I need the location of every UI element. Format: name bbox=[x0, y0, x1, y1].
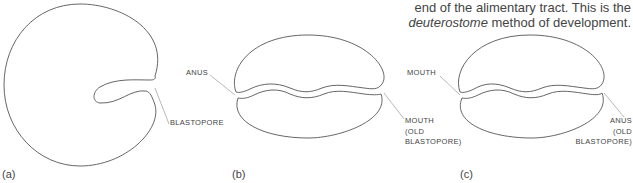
leader-anus-c bbox=[604, 93, 624, 117]
label-anus-b: ANUS bbox=[186, 68, 208, 79]
label-anus-old-blastopore-c: ANUS (OLD BLASTOPORE) bbox=[575, 116, 632, 148]
panel-label-b: (b) bbox=[232, 168, 245, 180]
panel-label-c: (c) bbox=[460, 168, 473, 180]
label-mouth-old-blastopore-b: MOUTH (OLD BLASTOPORE) bbox=[405, 116, 462, 148]
embryo-b-top-lobe bbox=[234, 35, 384, 92]
leader-mouth-c bbox=[440, 76, 460, 95]
embryo-c-top-lobe bbox=[458, 35, 604, 92]
embryo-diagram bbox=[0, 0, 633, 183]
leader-mouth-b bbox=[384, 93, 404, 119]
leader-anus-b bbox=[210, 75, 235, 95]
label-blastopore: BLASTOPORE bbox=[170, 118, 224, 129]
gastrula-outline-a bbox=[4, 4, 158, 166]
label-mouth-c: MOUTH bbox=[407, 68, 436, 79]
leader-blastopore-a bbox=[155, 88, 169, 124]
panel-label-a: (a) bbox=[2, 168, 15, 180]
embryo-b-bottom-lobe bbox=[237, 90, 382, 138]
